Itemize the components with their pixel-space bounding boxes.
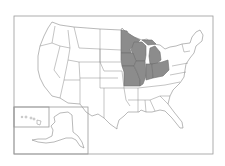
- inset-frame: [14, 107, 88, 154]
- us-map: [0, 0, 225, 166]
- hawaii: [21, 116, 41, 125]
- alaska: [32, 112, 84, 148]
- state-iowa: [121, 53, 136, 66]
